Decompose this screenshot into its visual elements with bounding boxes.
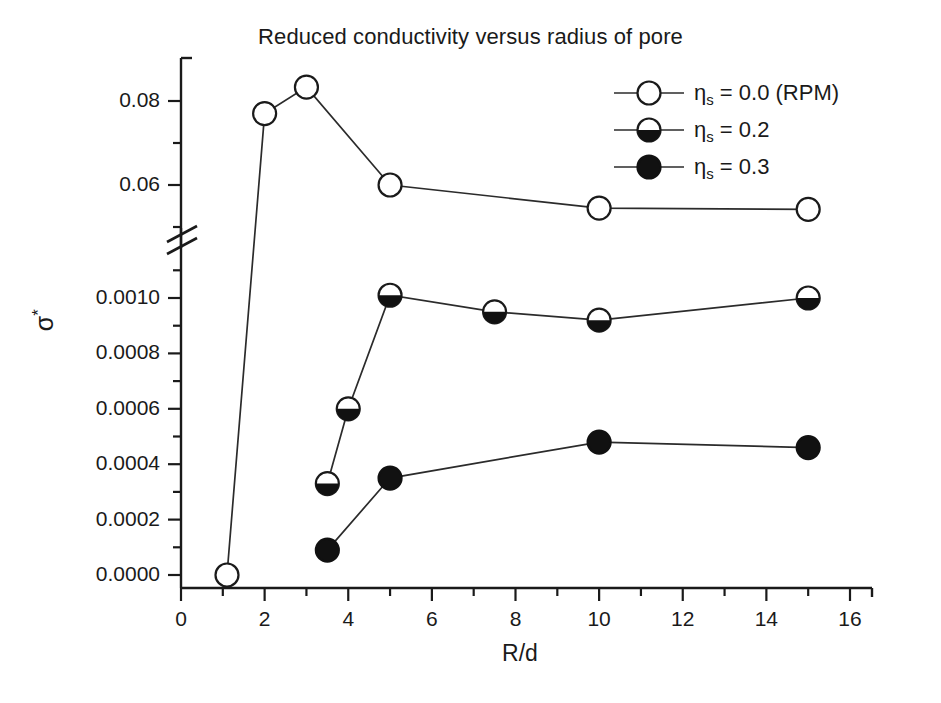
y-tick-label: 0.08 bbox=[72, 88, 160, 112]
series-line bbox=[327, 295, 808, 483]
legend-label: ηs = 0.0 (RPM) bbox=[694, 80, 839, 106]
legend-label-symbol: η bbox=[694, 117, 706, 142]
x-tick-label: 4 bbox=[318, 607, 378, 631]
x-tick-label: 8 bbox=[486, 607, 546, 631]
data-point-open-circle bbox=[638, 81, 661, 104]
data-point-open-circle bbox=[379, 174, 402, 197]
legend-label-subscript: s bbox=[706, 91, 714, 108]
data-point-half-fill bbox=[337, 409, 360, 421]
x-tick-label: 16 bbox=[820, 607, 880, 631]
data-point-half-fill bbox=[797, 298, 820, 310]
x-tick-label: 14 bbox=[736, 607, 796, 631]
legend-label: ηs = 0.3 bbox=[694, 154, 769, 180]
y-tick-label: 0.06 bbox=[72, 172, 160, 196]
data-point-open-circle bbox=[215, 564, 238, 587]
data-point-filled-circle bbox=[797, 436, 820, 459]
legend-label-symbol: η bbox=[694, 154, 706, 179]
data-point-open-circle bbox=[295, 76, 318, 99]
data-point-open-circle bbox=[253, 102, 276, 125]
y-tick-label: 0.0002 bbox=[58, 507, 160, 531]
chart-legend: ηs = 0.0 (RPM)ηs = 0.2ηs = 0.3 bbox=[612, 74, 932, 185]
data-point-half-fill bbox=[316, 484, 339, 496]
y-tick-label: 0.0008 bbox=[58, 340, 160, 364]
legend-item: ηs = 0.3 bbox=[612, 148, 932, 185]
x-tick-label: 2 bbox=[235, 607, 295, 631]
series-line bbox=[327, 442, 808, 550]
legend-marker-filled-circle bbox=[612, 152, 686, 182]
legend-label-value: = 0.2 bbox=[714, 117, 770, 142]
legend-label-value: = 0.3 bbox=[714, 154, 770, 179]
legend-marker-half-filled-circle bbox=[612, 115, 686, 145]
x-tick-label: 6 bbox=[402, 607, 462, 631]
data-point-filled-circle bbox=[316, 539, 339, 562]
series-1 bbox=[316, 284, 820, 495]
legend-label: ηs = 0.2 bbox=[694, 117, 769, 143]
x-tick-label: 0 bbox=[151, 607, 211, 631]
legend-label-symbol: η bbox=[694, 80, 706, 105]
x-tick-label: 12 bbox=[653, 607, 713, 631]
legend-marker-open-circle bbox=[612, 78, 686, 108]
data-point-open-circle bbox=[588, 197, 611, 220]
legend-label-subscript: s bbox=[706, 165, 714, 182]
data-point-filled-circle bbox=[588, 431, 611, 454]
data-point-half-fill bbox=[638, 130, 661, 142]
y-tick-label: 0.0004 bbox=[58, 451, 160, 475]
data-point-half-fill bbox=[588, 320, 611, 332]
x-tick-label: 10 bbox=[569, 607, 629, 631]
data-point-half-fill bbox=[379, 295, 402, 307]
y-tick-label: 0.0010 bbox=[58, 285, 160, 309]
legend-label-value: = 0.0 (RPM) bbox=[714, 80, 839, 105]
data-point-half-fill bbox=[483, 312, 506, 324]
data-point-open-circle bbox=[797, 198, 820, 221]
y-tick-label: 0.0006 bbox=[58, 396, 160, 420]
legend-label-subscript: s bbox=[706, 128, 714, 145]
chart-figure: Reduced conductivity versus radius of po… bbox=[0, 0, 941, 703]
data-point-filled-circle bbox=[379, 467, 402, 490]
series-2 bbox=[316, 431, 820, 562]
legend-item: ηs = 0.0 (RPM) bbox=[612, 74, 932, 111]
data-point-filled-circle bbox=[638, 155, 661, 178]
y-tick-label: 0.0000 bbox=[58, 562, 160, 586]
legend-item: ηs = 0.2 bbox=[612, 111, 932, 148]
